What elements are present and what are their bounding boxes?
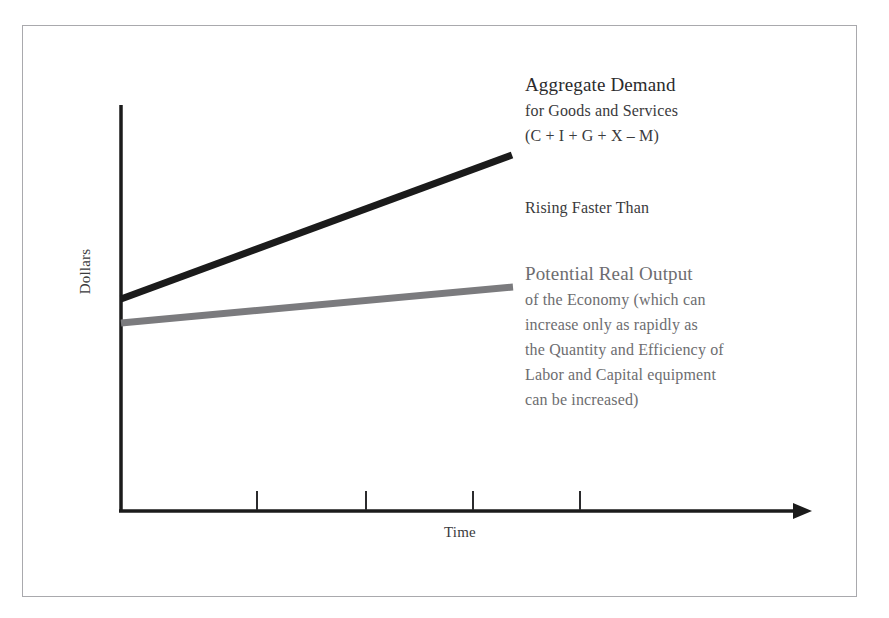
- annotation-potential-real-output-heading: Potential Real Output: [525, 261, 855, 287]
- y-axis-title: Dollars: [77, 227, 94, 317]
- annotation-aggregate-demand: Aggregate Demand for Goods and Services …: [525, 72, 855, 148]
- annotation-comparison: Rising Faster Than: [525, 195, 855, 220]
- annotation-potential-real-output: Potential Real Output of the Economy (wh…: [525, 261, 855, 412]
- annotation-comparison-text: Rising Faster Than: [525, 195, 855, 220]
- annotation-aggregate-demand-heading: Aggregate Demand: [525, 72, 855, 98]
- annotation-potential-real-output-line-3: the Quantity and Efficiency of: [525, 337, 855, 362]
- annotation-aggregate-demand-line-2: (C + I + G + X – M): [525, 123, 855, 148]
- annotation-potential-real-output-line-1: of the Economy (which can: [525, 287, 855, 312]
- annotation-potential-real-output-line-5: can be increased): [525, 387, 855, 412]
- clipped-page-caption: [0, 0, 889, 9]
- annotation-aggregate-demand-line-1: for Goods and Services: [525, 98, 855, 123]
- x-axis-title: Time: [380, 524, 540, 541]
- annotation-potential-real-output-line-4: Labor and Capital equipment: [525, 362, 855, 387]
- annotation-potential-real-output-line-2: increase only as rapidly as: [525, 312, 855, 337]
